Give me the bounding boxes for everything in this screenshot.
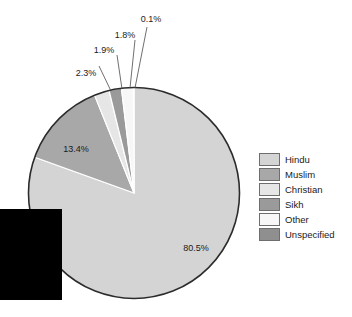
- pie-label-sikh: 1.9%: [94, 45, 115, 55]
- legend-item-other[interactable]: Other: [259, 212, 351, 227]
- pie-label-hindu: 80.5%: [183, 243, 209, 253]
- pie-label-christian: 2.3%: [76, 68, 97, 78]
- legend-item-sikh[interactable]: Sikh: [259, 197, 351, 212]
- legend-item-muslim[interactable]: Muslim: [259, 167, 351, 182]
- pie-label-muslim: 13.4%: [63, 144, 89, 154]
- legend-swatch-christian: [259, 183, 280, 196]
- pie-slice-unspecified[interactable]: [133, 87, 134, 193]
- legend-swatch-other: [259, 213, 280, 226]
- pie-label-other: 1.8%: [115, 30, 136, 40]
- legend-label-unspecified: Unspecified: [285, 228, 335, 241]
- legend-label-hindu: Hindu: [285, 153, 310, 166]
- legend-label-christian: Christian: [285, 183, 323, 196]
- legend-item-christian[interactable]: Christian: [259, 182, 351, 197]
- leader-line-other: [130, 40, 135, 88]
- occluding-black-block: [0, 209, 62, 300]
- chart-legend: HinduMuslimChristianSikhOtherUnspecified: [259, 152, 351, 242]
- legend-swatch-unspecified: [259, 228, 280, 241]
- pie-label-unspecified: 0.1%: [141, 14, 162, 24]
- leader-line-christian: [99, 66, 111, 91]
- legend-label-other: Other: [285, 213, 309, 226]
- legend-label-muslim: Muslim: [285, 168, 315, 181]
- legend-item-unspecified[interactable]: Unspecified: [259, 227, 351, 242]
- leader-line-unspecified: [135, 27, 147, 88]
- chart-canvas: 80.5% 13.4% 2.3% 1.9% 1.8% 0.1% HinduMus…: [0, 0, 352, 317]
- legend-swatch-muslim: [259, 168, 280, 181]
- legend-swatch-hindu: [259, 153, 280, 166]
- legend-item-hindu[interactable]: Hindu: [259, 152, 351, 167]
- legend-swatch-sikh: [259, 198, 280, 211]
- legend-label-sikh: Sikh: [285, 198, 303, 211]
- leader-line-sikh: [117, 55, 122, 89]
